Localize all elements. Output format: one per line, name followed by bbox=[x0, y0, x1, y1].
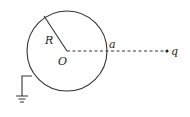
ground-icon bbox=[16, 96, 28, 102]
label-radius: R bbox=[44, 34, 53, 47]
ground-wire bbox=[22, 76, 32, 96]
diagram-canvas: R O a q bbox=[0, 0, 190, 117]
label-center: O bbox=[58, 55, 67, 68]
label-surface-point: a bbox=[109, 38, 116, 51]
charge-point bbox=[165, 49, 168, 52]
label-charge: q bbox=[171, 45, 178, 58]
